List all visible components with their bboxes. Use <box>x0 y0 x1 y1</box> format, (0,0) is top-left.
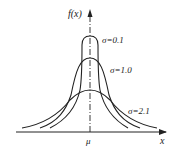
mu-label: μ <box>85 136 91 146</box>
y-axis-arrow-icon <box>88 9 93 17</box>
curve-label-sigma-1-0: σ=1.0 <box>110 65 132 75</box>
y-axis-label: f(x) <box>68 8 83 20</box>
normal-distribution-diagram: f(x) σ=0.1 σ=1.0 σ=2.1 μ x <box>0 0 183 156</box>
curve-sigma-0-1 <box>50 36 128 128</box>
curve-label-sigma-0-1: σ=0.1 <box>102 35 124 45</box>
x-axis-label: x <box>159 135 165 146</box>
curve-label-sigma-2-1: σ=2.1 <box>128 106 150 116</box>
diagram-canvas: f(x) σ=0.1 σ=1.0 σ=2.1 μ x <box>0 0 183 156</box>
